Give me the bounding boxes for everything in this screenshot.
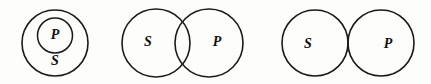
circle-label-p: P xyxy=(51,27,60,42)
circle-s-left xyxy=(122,9,190,77)
euler-diagram-1-p-inside-s: SP xyxy=(22,10,88,76)
circle-s-left xyxy=(282,10,348,76)
euler-diagram-3-s-tangent-p: SP xyxy=(282,10,414,76)
circle-label-p: P xyxy=(384,36,393,51)
circle-label-s: S xyxy=(304,36,312,51)
circle-label-s: S xyxy=(144,34,152,49)
circle-p-right xyxy=(348,10,414,76)
circle-label-p: P xyxy=(213,34,222,49)
circle-p-right xyxy=(175,9,243,77)
euler-diagram-figure: SPSPSP xyxy=(0,0,431,84)
circle-label-s: S xyxy=(51,53,59,68)
venn-diagram-canvas: SPSPSP xyxy=(0,0,431,84)
euler-diagram-2-s-overlaps-p: SP xyxy=(122,9,243,77)
